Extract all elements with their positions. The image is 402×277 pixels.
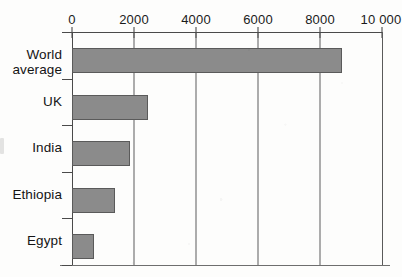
y-tick-mark-5 [62,265,72,266]
bar-uk [72,95,148,120]
plot-right-border [382,32,383,266]
bar-chart: 0 2000 4000 6000 8000 10 000 World avera… [0,0,402,277]
y-tick-mark-1 [62,79,72,80]
category-label-india: India [32,140,62,155]
x-tick-label-4000: 4000 [181,12,211,27]
category-label-world-average: World average [13,47,63,77]
x-tick-label-10000: 10 000 [361,12,402,27]
scan-artifact [0,138,4,154]
category-label-egypt: Egypt [27,233,62,248]
x-tick-label-8000: 8000 [305,12,335,27]
y-tick-mark-3 [62,172,72,173]
category-label-uk: UK [43,94,62,109]
bar-ethiopia [72,188,115,213]
x-tick-label-0: 0 [68,12,75,27]
y-tick-mark-4 [62,218,72,219]
category-label-ethiopia: Ethiopia [12,187,62,202]
y-tick-mark-0 [62,32,72,33]
y-tick-mark-2 [62,125,72,126]
x-tick-label-2000: 2000 [119,12,149,27]
bar-egypt [72,234,94,259]
x-tick-label-6000: 6000 [243,12,273,27]
plot-top-border [72,32,383,33]
x-axis-line [60,265,390,266]
bar-india [72,141,130,166]
bar-world-average [72,48,342,73]
